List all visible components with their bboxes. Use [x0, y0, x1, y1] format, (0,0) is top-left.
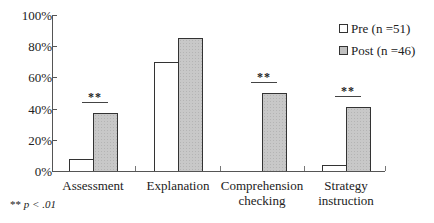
x-tick [135, 166, 136, 171]
y-axis [52, 15, 53, 172]
y-tick-label: 40% [28, 103, 52, 116]
bar-pre [322, 165, 347, 171]
y-tick-label: 60% [28, 71, 52, 84]
legend-label-post: Post (n =46) [351, 44, 415, 57]
bar-post [178, 38, 203, 171]
footnote-text: p < .01 [24, 198, 56, 210]
significance-mark: ** [335, 85, 361, 97]
category-label: Assessment [48, 178, 138, 193]
y-tick-label: 100% [22, 9, 52, 22]
legend-item-post: Post (n =46) [339, 39, 415, 61]
category-label: Comprehensionchecking [217, 178, 307, 208]
bar-post [262, 93, 287, 171]
significance-mark: ** [251, 71, 277, 83]
footnote: ** p < .01 [10, 198, 56, 210]
y-tick-label: 0% [35, 165, 52, 178]
x-axis [52, 171, 385, 172]
legend-item-pre: Pre (n =51) [339, 17, 415, 39]
x-tick [220, 166, 221, 171]
y-tick-label: 20% [28, 134, 52, 147]
category-label: Explanation [133, 178, 223, 193]
y-tick-label: 80% [28, 40, 52, 53]
category-label: Strategyinstruction [301, 178, 391, 208]
legend: Pre (n =51) Post (n =46) [339, 17, 415, 61]
footnote-stars: ** [10, 198, 21, 210]
bar-post [346, 107, 371, 171]
x-tick [304, 166, 305, 171]
legend-label-pre: Pre (n =51) [351, 22, 410, 35]
bar-pre [69, 159, 94, 171]
legend-swatch-post [339, 46, 348, 55]
bar-pre [154, 62, 179, 171]
legend-swatch-pre [339, 24, 348, 33]
x-tick [385, 166, 386, 171]
significance-mark: ** [82, 91, 108, 103]
bar-post [93, 113, 118, 171]
bar-chart: 0%20%40%60%80%100% ****** AssessmentExpl… [0, 0, 434, 223]
